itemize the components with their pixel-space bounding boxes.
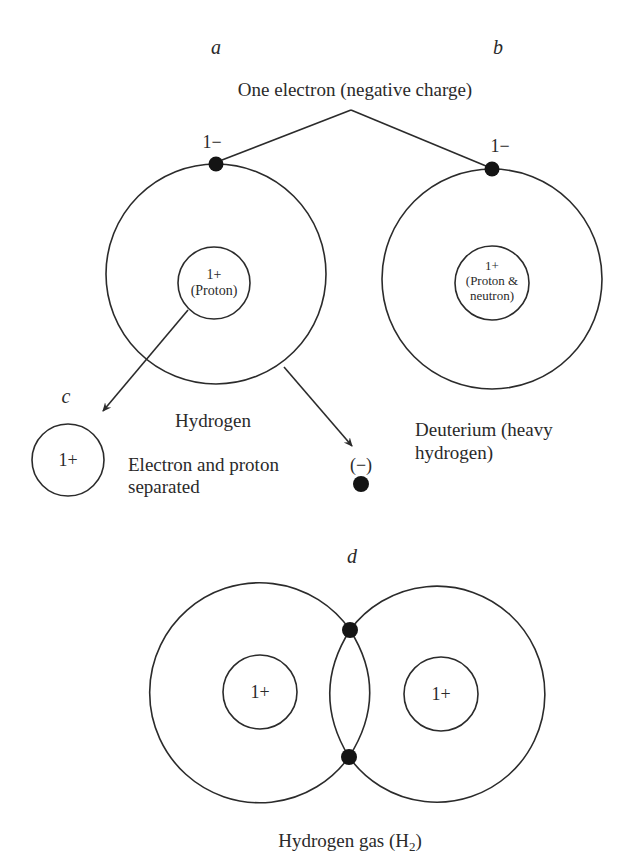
separated-proton-charge: 1+ [58,450,77,470]
hydrogen-atom: 1− 1+ (Proton) Hydrogen [106,132,326,431]
hydrogen-electron [209,157,224,172]
separated-caption-line2: separated [128,476,200,497]
hydrogen-gas-caption: Hydrogen gas (H2) [278,830,422,854]
deuterium-electron-charge: 1− [490,136,509,156]
caption-text: Hydrogen gas (H [278,830,409,852]
panel-label-a: a [211,36,221,58]
electron-callout-lines [222,110,486,166]
deuterium-caption-line1: Deuterium (heavy [415,419,553,441]
hydrogen-nucleus-label: (Proton) [191,283,238,299]
diagram-svg: a b One electron (negative charge) 1− 1+… [0,0,634,868]
bond-curve-right [349,630,370,757]
arrow-to-proton [103,310,188,411]
electron-callout-label: One electron (negative charge) [238,79,472,101]
deuterium-nucleus-label-1: (Proton & [466,273,518,288]
panel-label-d: d [347,545,358,567]
separated-particles: c 1+ (−) Electron and proton separated [32,310,372,497]
shared-electron-bottom [341,749,357,765]
separated-electron [353,476,369,492]
right-nucleus-charge: 1+ [431,684,450,704]
hydrogen-electron-charge: 1− [202,132,221,152]
deuterium-caption-line2: hydrogen) [415,442,493,464]
arrow-to-electron [284,367,352,446]
hydrogen-caption: Hydrogen [175,410,251,431]
separated-electron-charge: (−) [350,455,372,476]
hydrogen-molecule: d 1+ 1+ Hydrogen gas (H2) [150,545,545,854]
deuterium-atom: 1− 1+ (Proton & neutron) Deuterium (heav… [382,136,602,464]
caption-close: ) [416,830,422,852]
left-nucleus-charge: 1+ [250,682,269,702]
deuterium-electron [485,162,500,177]
hydrogen-atoms-diagram: a b One electron (negative charge) 1− 1+… [0,0,634,868]
panel-label-b: b [493,36,503,58]
deuterium-nucleus-label-2: neutron) [470,288,514,303]
bond-curve-left [330,630,350,757]
panel-label-c: c [62,385,71,407]
shared-electron-top [342,622,358,638]
hydrogen-nucleus-charge: 1+ [207,267,222,282]
callout-line-to-deuterium-electron [351,110,486,166]
separated-caption-line1: Electron and proton [128,454,279,475]
deuterium-nucleus-charge: 1+ [485,258,499,273]
callout-line-to-hydrogen-electron [222,110,351,160]
